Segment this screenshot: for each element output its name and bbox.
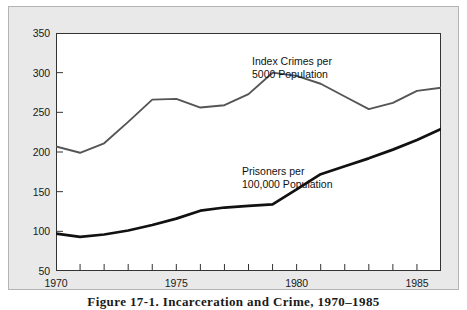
chart-panel: Index Crimes per 5000 Population Prisone… [8,6,459,290]
y-axis-tick-label: 200 [20,146,50,158]
x-axis-tick-label: 1970 [36,277,76,289]
annotation-prisoners-line1: Prisoners per [242,165,333,178]
x-axis-tick-label: 1985 [397,277,437,289]
figure-caption: Figure 17-1. Incarceration and Crime, 19… [0,294,467,310]
annotation-prisoners-line2: 100,000 Population [242,178,333,191]
series-line-index-crimes [56,73,441,153]
y-axis-tick-label: 150 [20,186,50,198]
line-chart-svg [56,33,441,271]
x-axis-tick-label: 1980 [277,277,317,289]
annotation-index-crimes-line1: Index Crimes per [252,55,332,68]
y-axis-tick-label: 100 [20,225,50,237]
y-axis-tick-label: 50 [20,265,50,277]
y-axis-tick-label: 300 [20,67,50,79]
plot-area: Index Crimes per 5000 Population Prisone… [56,33,441,271]
x-axis-tick-label: 1975 [156,277,196,289]
annotation-prisoners: Prisoners per 100,000 Population [242,165,333,190]
annotation-index-crimes-line2: 5000 Population [252,68,332,81]
y-axis-tick-label: 350 [20,27,50,39]
x-tick-marks [56,264,441,271]
y-axis-tick-label: 250 [20,106,50,118]
annotation-index-crimes: Index Crimes per 5000 Population [252,55,332,80]
